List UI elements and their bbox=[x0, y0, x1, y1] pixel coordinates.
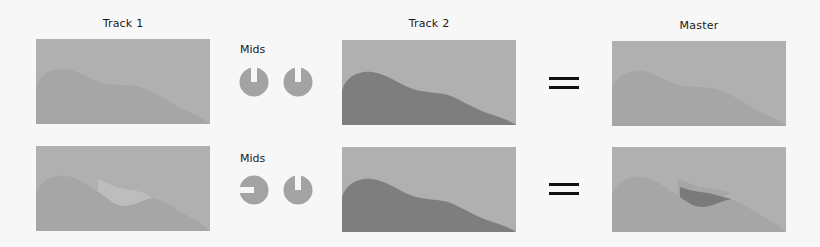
track1-waveform-panel-boosted bbox=[36, 146, 210, 231]
knob-icon bbox=[239, 175, 269, 205]
track2-title: Track 2 bbox=[342, 17, 516, 30]
knob-icon bbox=[239, 67, 269, 97]
master-waveform-2 bbox=[612, 147, 786, 232]
row1-equals-operator bbox=[549, 77, 579, 90]
master-waveform-panel bbox=[612, 41, 786, 126]
row2-equals-operator bbox=[549, 183, 579, 196]
track1-waveform bbox=[36, 39, 210, 124]
track2-waveform-panel-2 bbox=[342, 147, 516, 232]
equals-bar bbox=[549, 86, 579, 89]
track2-waveform-2 bbox=[342, 147, 516, 232]
row1-track1-mids-knob[interactable] bbox=[239, 67, 269, 97]
equals-bar bbox=[549, 77, 579, 80]
track2-waveform bbox=[342, 40, 516, 125]
track1-waveform-panel bbox=[36, 39, 210, 124]
track1-waveform-boosted bbox=[36, 146, 210, 231]
knob-icon bbox=[283, 67, 313, 97]
master-waveform bbox=[612, 41, 786, 126]
row2-mids-label: Mids bbox=[240, 152, 265, 165]
row2-track1-mids-knob[interactable] bbox=[239, 175, 269, 205]
row1-mids-label: Mids bbox=[240, 43, 265, 56]
master-title: Master bbox=[612, 19, 786, 32]
row2-track2-mids-knob[interactable] bbox=[283, 175, 313, 205]
equals-bar bbox=[549, 183, 579, 186]
knob-icon bbox=[283, 175, 313, 205]
master-waveform-panel-2 bbox=[612, 147, 786, 232]
row1-track2-mids-knob[interactable] bbox=[283, 67, 313, 97]
equals-bar bbox=[549, 192, 579, 195]
track1-title: Track 1 bbox=[36, 17, 210, 30]
track2-waveform-panel bbox=[342, 40, 516, 125]
